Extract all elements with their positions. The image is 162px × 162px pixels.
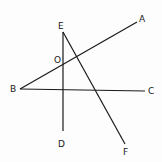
label-b: B — [10, 84, 16, 94]
label-o: O — [54, 55, 61, 65]
label-e: E — [58, 21, 64, 31]
label-f: F — [123, 147, 128, 157]
line-ef — [63, 32, 125, 144]
diagram-svg: A B C D E F O — [0, 0, 162, 162]
line-bc — [20, 89, 145, 91]
line-ba — [20, 22, 137, 89]
label-c: C — [148, 86, 154, 96]
label-d: D — [58, 139, 65, 149]
label-a: A — [139, 14, 146, 24]
geometry-diagram: A B C D E F O — [0, 0, 162, 162]
